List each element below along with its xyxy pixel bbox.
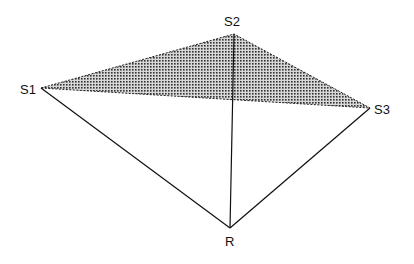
- label-s3: S3: [374, 102, 390, 117]
- edge-s3-r: [230, 108, 370, 228]
- diagram-canvas: S1 S2 S3 R: [0, 0, 414, 264]
- edge-s1-r: [41, 88, 230, 228]
- label-r: R: [225, 234, 234, 249]
- label-s1: S1: [20, 82, 36, 97]
- label-s2: S2: [224, 14, 240, 29]
- shaded-triangle-s1-s2-s3: [41, 34, 370, 108]
